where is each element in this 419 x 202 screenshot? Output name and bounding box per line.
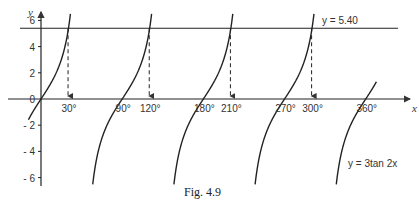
y-tick-label: - 4	[23, 146, 35, 157]
x-axis-label: x	[411, 102, 417, 114]
x-tick-label: 90°	[116, 103, 131, 114]
x-tick-label: 210°	[221, 103, 242, 114]
y-tick-label: 0	[29, 94, 35, 105]
y-tick-label: 2	[29, 68, 35, 79]
x-tick-label: 30°	[61, 103, 76, 114]
figure-caption: Fig. 4.9	[184, 185, 221, 199]
y-axis-label: y	[27, 6, 33, 18]
annotation-function: y = 3tan 2x	[348, 158, 397, 169]
y-tick-label: - 6	[23, 173, 35, 184]
tan-graph-figure: - 6- 4- 2024630°90°120°180°210°270°300°3…	[0, 0, 419, 202]
tan-branch	[336, 82, 376, 185]
x-tick-label: 360°	[356, 103, 377, 114]
y-tick-label: - 2	[23, 120, 35, 131]
x-tick-label: 180°	[194, 103, 215, 114]
x-tick-label: 270°	[275, 103, 296, 114]
x-tick-label: 300°	[302, 103, 323, 114]
dashed-drop-lines	[68, 28, 312, 96]
x-tick-label: 120°	[140, 103, 161, 114]
annotation-y-5-40: y = 5.40	[322, 15, 358, 26]
y-tick-label: 4	[29, 42, 35, 53]
